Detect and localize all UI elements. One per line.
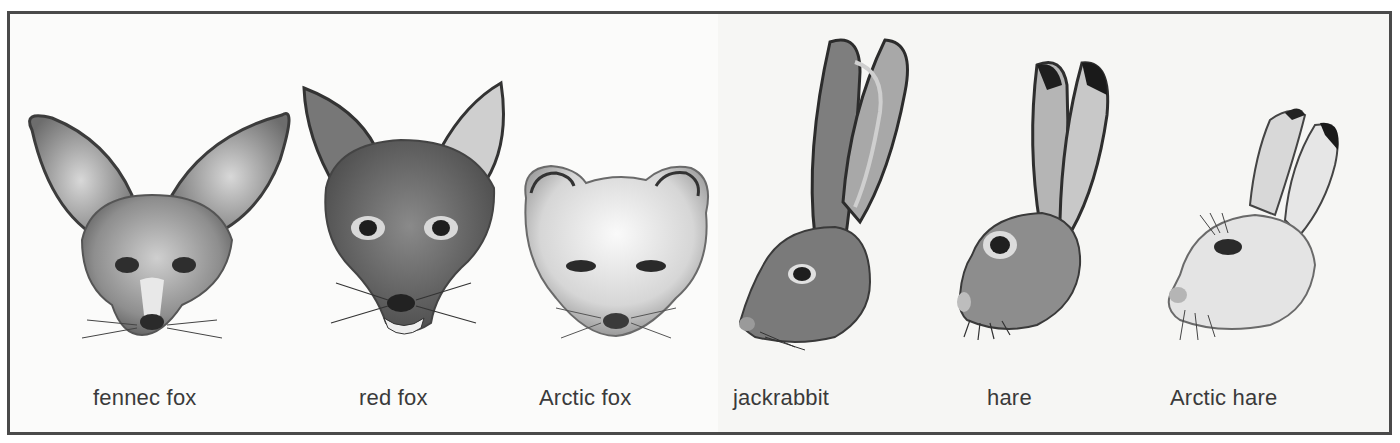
- red-fox-head-icon: [296, 78, 511, 343]
- fennec-fox-head-icon: [12, 100, 292, 345]
- label-fennec-fox: fennec fox: [93, 385, 197, 411]
- arctic-hare-illustration: [1160, 95, 1345, 345]
- arctic-fox-head-icon: [516, 158, 714, 343]
- jackrabbit-head-icon: [735, 32, 915, 352]
- hare-illustration: [952, 55, 1122, 340]
- label-jackrabbit: jackrabbit: [733, 385, 829, 411]
- arctic-fox-illustration: [516, 158, 714, 343]
- label-arctic-fox: Arctic fox: [539, 385, 631, 411]
- hare-head-icon: [952, 55, 1122, 340]
- jackrabbit-illustration: [735, 32, 915, 352]
- label-hare: hare: [987, 385, 1032, 411]
- fennec-fox-illustration: [12, 100, 292, 345]
- label-arctic-hare: Arctic hare: [1170, 385, 1277, 411]
- label-red-fox: red fox: [359, 385, 428, 411]
- red-fox-illustration: [296, 78, 511, 343]
- arctic-hare-head-icon: [1160, 95, 1345, 345]
